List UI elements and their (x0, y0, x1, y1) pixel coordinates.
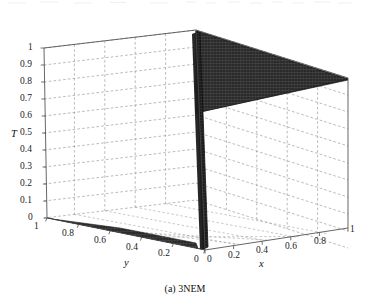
y-tick-label-0_8: 0.8 (62, 229, 74, 239)
z-tick-label-0_9: 0.9 (20, 60, 32, 70)
z-tick-label-0_1: 0.1 (20, 196, 32, 206)
plateau-sheet-body (196, 31, 348, 113)
z-tick-label-0_3: 0.3 (20, 162, 32, 172)
x-tick-label-0_2: 0.2 (228, 251, 240, 261)
z-tick-label-0_2: 0.2 (20, 179, 32, 189)
figure-caption: (a) 3NEM (0, 283, 370, 294)
x-axis-ticks (205, 228, 348, 254)
x-tick-label-1: 1 (350, 225, 355, 235)
y-tick-label-0_4: 0.4 (126, 243, 138, 253)
z-tick-label-0: 0 (28, 213, 33, 223)
z-tick-label-0_7: 0.7 (20, 94, 32, 104)
y-tick-label-0: 0 (194, 255, 199, 265)
z-tick-label-0_8: 0.8 (20, 77, 32, 87)
z-tick-label-0_4: 0.4 (20, 145, 32, 155)
x-tick-label-0_8: 0.8 (314, 237, 326, 247)
x-tick-label-0_6: 0.6 (285, 242, 297, 252)
x-axis-title: x (259, 258, 264, 269)
x-tick-label-0_4: 0.4 (256, 246, 268, 256)
y-tick-label-0_2: 0.2 (158, 249, 170, 259)
y-axis-title: y (124, 257, 129, 268)
gridlines-left-wall (44, 30, 196, 218)
z-axis-title: T (11, 128, 17, 139)
z-tick-label-1: 1 (28, 43, 33, 53)
z-tick-label-0_5: 0.5 (20, 128, 32, 138)
surface-plot-canvas (0, 0, 370, 307)
y-tick-label-0_6: 0.6 (94, 236, 106, 246)
x-tick-label-0: 0 (207, 255, 212, 265)
figure-3nem: 1 0.9 0.8 0.7 0.6 0.5 0.4 0.3 0.2 0.1 0 … (0, 0, 370, 307)
z-tick-label-0_6: 0.6 (20, 111, 32, 121)
y-tick-label-1: 1 (34, 222, 39, 232)
